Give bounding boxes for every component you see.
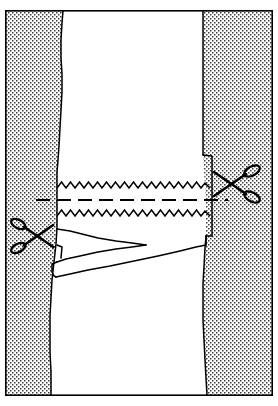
figure-root <box>0 0 278 406</box>
sewing-diagram-svg <box>0 0 278 406</box>
